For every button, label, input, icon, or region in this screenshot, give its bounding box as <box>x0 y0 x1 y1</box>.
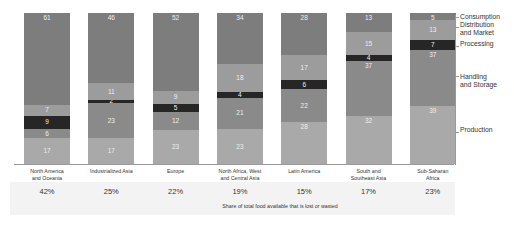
segment-value-label: 28 <box>281 14 327 22</box>
category-label: Industrialized Asia <box>79 168 143 175</box>
legend-label: Consumption <box>460 13 500 21</box>
bar: 232141834 <box>217 13 263 164</box>
segment-value-label: 37 <box>410 51 456 59</box>
segment-value-label: 9 <box>24 118 70 126</box>
segment-value-label: 12 <box>153 117 199 125</box>
bar-segment <box>24 13 70 105</box>
segment-value-label: 39 <box>410 107 456 115</box>
share-value: 23% <box>401 187 465 196</box>
legend-tick <box>455 46 459 47</box>
segment-value-label: 4 <box>217 91 263 99</box>
segment-value-label: 61 <box>24 14 70 22</box>
segment-value-label: 13 <box>346 14 392 22</box>
segment-value-label: 46 <box>88 14 134 22</box>
segment-value-label: 22 <box>281 102 327 110</box>
stacked-bar-chart: 1769761172321146231259522321418342822617… <box>0 0 514 227</box>
segment-value-label: 7 <box>24 106 70 114</box>
segment-value-label: 13 <box>410 26 456 34</box>
segment-value-label: 6 <box>281 81 327 89</box>
share-value: 15% <box>272 187 336 196</box>
segment-value-label: 4 <box>346 54 392 62</box>
legend-tick <box>455 17 459 18</box>
footnote: Share of total food available that is lo… <box>180 203 380 209</box>
segment-value-label: 7 <box>410 41 456 49</box>
segment-value-label: 32 <box>346 117 392 125</box>
bar: 282261728 <box>281 13 327 164</box>
category-label: Sub-SaharanAfrica <box>401 168 465 181</box>
segment-value-label: 6 <box>24 130 70 138</box>
legend-tick <box>455 27 459 28</box>
legend-tick <box>455 132 459 133</box>
bar-segment <box>88 13 134 83</box>
segment-value-label: 17 <box>24 147 70 155</box>
legend-label: Production <box>460 126 493 134</box>
segment-value-label: 37 <box>346 62 392 70</box>
segment-value-label: 5 <box>410 14 456 22</box>
share-value: 42% <box>15 187 79 196</box>
segment-value-label: 5 <box>153 104 199 112</box>
segment-value-label: 17 <box>88 147 134 155</box>
segment-value-label: 52 <box>153 14 199 22</box>
share-value: 22% <box>144 187 208 196</box>
x-axis-line <box>14 164 454 165</box>
segment-value-label: 34 <box>217 14 263 22</box>
segment-value-label: 23 <box>153 143 199 151</box>
segment-value-label: 28 <box>281 123 327 131</box>
segment-value-label: 17 <box>281 64 327 72</box>
bar-segment <box>153 13 199 91</box>
share-value: 17% <box>337 187 401 196</box>
bar: 1769761 <box>24 13 70 164</box>
legend-label: Distributionand Market <box>460 21 494 37</box>
legend-tick <box>455 76 459 77</box>
segment-value-label: 11 <box>88 88 134 96</box>
category-label: North Africa, Westand Central Asia <box>208 168 272 181</box>
category-label: South andSoutheast Asia <box>337 168 401 181</box>
category-label: North Americaand Oceania <box>15 168 79 181</box>
share-value: 25% <box>79 187 143 196</box>
share-value: 19% <box>208 187 272 196</box>
bar: 39377135 <box>410 13 456 164</box>
legend-bracket-line <box>455 15 456 165</box>
category-label: Latin America <box>272 168 336 175</box>
segment-value-label: 21 <box>217 109 263 117</box>
category-label: Europe <box>144 168 208 175</box>
bar: 23125952 <box>153 13 199 164</box>
segment-value-label: 9 <box>153 93 199 101</box>
bar: 172321146 <box>88 13 134 164</box>
bar: 323741513 <box>346 13 392 164</box>
legend-label: Processing <box>460 40 494 48</box>
segment-value-label: 15 <box>346 40 392 48</box>
legend-label: Handlingand Storage <box>460 73 497 89</box>
segment-value-label: 18 <box>217 74 263 82</box>
segment-value-label: 23 <box>217 143 263 151</box>
segment-value-label: 23 <box>88 117 134 125</box>
